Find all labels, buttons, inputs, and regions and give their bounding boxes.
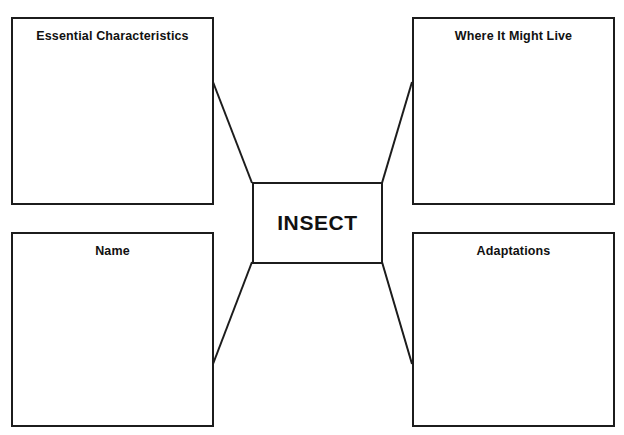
node-label-name: Name (13, 234, 212, 258)
connector-bottom-right (382, 262, 412, 364)
node-label-essential-characteristics: Essential Characteristics (13, 19, 212, 43)
connector-bottom-left (213, 262, 252, 364)
graphic-organizer-worksheet: Brainstorm Essential Characteristics Whe… (0, 0, 624, 435)
node-adaptations[interactable]: Adaptations (412, 232, 615, 427)
node-essential-characteristics[interactable]: Essential Characteristics (11, 17, 214, 205)
node-name[interactable]: Name (11, 232, 214, 427)
connector-top-right (382, 82, 412, 183)
connector-top-left (213, 82, 252, 183)
node-label-where-it-might-live: Where It Might Live (414, 19, 613, 43)
node-label-center-topic: INSECT (254, 212, 381, 234)
node-center-topic[interactable]: INSECT (252, 182, 383, 264)
node-where-it-might-live[interactable]: Where It Might Live (412, 17, 615, 205)
node-label-adaptations: Adaptations (414, 234, 613, 258)
